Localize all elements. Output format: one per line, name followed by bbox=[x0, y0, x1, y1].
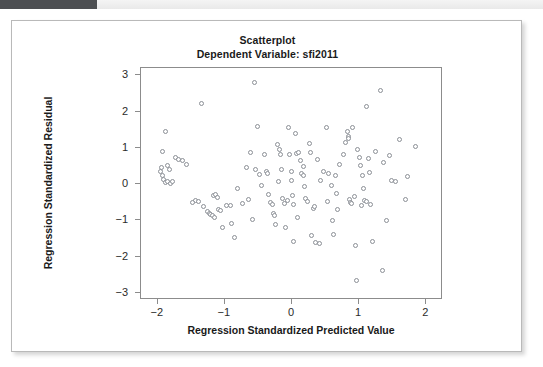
scatter-point bbox=[270, 202, 275, 207]
scatter-point bbox=[167, 167, 172, 172]
scatter-point bbox=[318, 178, 323, 183]
y-tick-mark bbox=[135, 256, 140, 257]
scatter-point bbox=[295, 215, 300, 220]
x-tick-mark bbox=[425, 299, 426, 304]
scatter-point bbox=[378, 88, 383, 93]
scatterplot-chart: Scatterplot Dependent Variable: sfi2011 … bbox=[12, 21, 523, 353]
chart-subtitle: Dependent Variable: sfi2011 bbox=[12, 47, 523, 61]
scatter-point bbox=[352, 194, 357, 199]
scatter-point bbox=[290, 193, 295, 198]
x-tick-mark bbox=[291, 299, 292, 304]
scatter-point bbox=[285, 198, 290, 203]
x-tick-label: −2 bbox=[150, 306, 163, 318]
x-tick-mark bbox=[358, 299, 359, 304]
y-tick-label: −3 bbox=[115, 286, 128, 298]
scatter-point bbox=[291, 202, 296, 207]
scatter-point bbox=[384, 218, 389, 223]
scatter-point bbox=[283, 225, 288, 230]
plot-area: −2−1012 3210−1−2−3 bbox=[140, 67, 442, 299]
scatter-point bbox=[367, 170, 372, 175]
scatter-point bbox=[305, 199, 310, 204]
scatter-point bbox=[370, 239, 375, 244]
y-tick-mark bbox=[135, 111, 140, 112]
scatter-point bbox=[286, 125, 291, 130]
scatter-point bbox=[403, 197, 408, 202]
x-tick-label: 2 bbox=[422, 306, 428, 318]
y-axis-title: Regression Standardized Residual bbox=[42, 97, 54, 270]
scatter-point bbox=[163, 129, 168, 134]
scatter-point bbox=[346, 136, 351, 141]
scatter-point bbox=[255, 124, 260, 129]
y-tick-mark bbox=[135, 183, 140, 184]
scatter-point bbox=[252, 80, 257, 85]
scatter-point bbox=[387, 153, 392, 158]
scatter-point bbox=[248, 150, 253, 155]
scatter-point bbox=[240, 201, 245, 206]
window-top-bar-accent bbox=[0, 0, 97, 9]
y-tick-mark bbox=[135, 219, 140, 220]
chart-title: Scatterplot bbox=[12, 33, 523, 47]
scatter-point bbox=[333, 173, 338, 178]
figure-card: Scatterplot Dependent Variable: sfi2011 … bbox=[11, 20, 522, 352]
y-tick-label: −2 bbox=[115, 250, 128, 262]
chart-title-block: Scatterplot Dependent Variable: sfi2011 bbox=[12, 33, 523, 61]
scatter-point bbox=[413, 144, 418, 149]
scatter-point bbox=[324, 125, 329, 130]
x-axis-title: Regression Standardized Predicted Value bbox=[140, 324, 442, 336]
y-tick-mark bbox=[135, 147, 140, 148]
scatter-point bbox=[287, 152, 292, 157]
scatter-point bbox=[199, 101, 204, 106]
scatter-point bbox=[262, 152, 267, 157]
x-tick-label: 1 bbox=[355, 306, 361, 318]
scatter-point bbox=[366, 156, 371, 161]
y-tick-label: 3 bbox=[122, 68, 128, 80]
scatter-point bbox=[196, 199, 201, 204]
scatter-point bbox=[275, 142, 280, 147]
scatter-point bbox=[307, 141, 312, 146]
scatter-point bbox=[235, 186, 240, 191]
scatter-point bbox=[259, 183, 264, 188]
scatter-point bbox=[341, 152, 346, 157]
scatter-point bbox=[301, 173, 306, 178]
scatter-point bbox=[293, 131, 298, 136]
y-tick-label: 2 bbox=[122, 105, 128, 117]
scatter-point bbox=[380, 268, 385, 273]
x-tick-mark bbox=[224, 299, 225, 304]
scatter-point bbox=[250, 217, 255, 222]
scatter-point bbox=[273, 222, 278, 227]
scatter-point bbox=[397, 137, 402, 142]
y-tick-label: 1 bbox=[122, 141, 128, 153]
scatter-point bbox=[272, 213, 277, 218]
scatter-point bbox=[276, 179, 281, 184]
x-tick-mark bbox=[157, 299, 158, 304]
x-tick-label: 0 bbox=[288, 306, 294, 318]
scatter-point bbox=[302, 184, 307, 189]
y-tick-mark bbox=[135, 74, 140, 75]
scatter-point bbox=[321, 169, 326, 174]
scatter-point bbox=[289, 169, 294, 174]
x-tick-label: −1 bbox=[218, 306, 231, 318]
scatter-point bbox=[215, 195, 220, 200]
scatter-point bbox=[360, 173, 365, 178]
scatter-point bbox=[220, 225, 225, 230]
y-tick-label: 0 bbox=[122, 177, 128, 189]
scatter-point bbox=[296, 150, 301, 155]
scatter-point bbox=[312, 204, 317, 209]
window-top-bar bbox=[0, 0, 543, 9]
scatter-point bbox=[373, 149, 378, 154]
scatter-point bbox=[212, 215, 217, 220]
scatter-point bbox=[405, 174, 410, 179]
y-tick-mark bbox=[135, 292, 140, 293]
scatter-point bbox=[308, 150, 313, 155]
y-tick-label: −1 bbox=[115, 213, 128, 225]
